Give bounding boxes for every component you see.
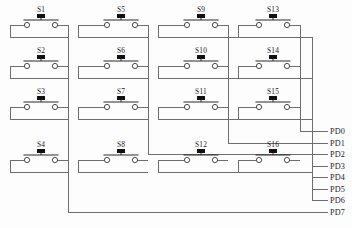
switch-s16[interactable] (256, 149, 291, 163)
switch-s6-left-lead (78, 66, 107, 78)
col-bus-2-vertical (148, 25, 324, 154)
switch-s11-terminal-left (184, 104, 189, 109)
switch-s7-left-lead (78, 107, 107, 119)
switch-s4[interactable] (24, 149, 59, 163)
matrix-keypad-schematic: S1S2S3S4S5S6S7S8S9S10S11S12S13S14S15S16P… (0, 0, 352, 228)
switch-s2-terminal-right (52, 63, 57, 68)
switch-s1-terminal-right (52, 22, 57, 27)
switch-s2-terminal-left (24, 63, 29, 68)
switch-s1[interactable] (24, 14, 59, 28)
switch-s9-plunger-cap[interactable] (197, 14, 205, 18)
switch-s6-terminal-left (104, 63, 109, 68)
switch-s14[interactable] (256, 55, 291, 69)
switch-s1-plunger-cap[interactable] (37, 14, 45, 18)
switch-s12-terminal-right (212, 157, 217, 162)
switch-s8[interactable] (104, 149, 139, 163)
switch-s10-left-lead (158, 66, 187, 78)
switch-s12-designator: S12 (195, 140, 207, 149)
switch-s12[interactable] (184, 149, 219, 163)
wiring-layer (10, 25, 328, 212)
switch-s6[interactable] (104, 55, 139, 69)
switch-s5-terminal-right (132, 22, 137, 27)
switch-s9-left-lead (158, 25, 187, 37)
switch-s9[interactable] (184, 14, 219, 28)
switch-s13-terminal-right (284, 22, 289, 27)
switch-s13[interactable] (256, 14, 291, 28)
port-label-pd1: PD1 (330, 139, 345, 148)
switch-s7-designator: S7 (117, 87, 125, 96)
switch-s1-left-lead (10, 25, 27, 37)
switch-s2[interactable] (24, 55, 59, 69)
switch-s2-designator: S2 (37, 46, 45, 55)
switch-s3-plunger-cap[interactable] (37, 96, 45, 100)
switch-s13-plunger-cap[interactable] (269, 14, 277, 18)
switch-s6-designator: S6 (117, 46, 125, 55)
switch-s3[interactable] (24, 96, 59, 110)
switch-s5-terminal-left (104, 22, 109, 27)
switch-s5-left-lead (78, 25, 107, 37)
switch-s3-terminal-left (24, 104, 29, 109)
switch-s11-plunger-cap[interactable] (197, 96, 205, 100)
switch-s9-terminal-left (184, 22, 189, 27)
port-label-pd5: PD5 (330, 185, 345, 194)
switch-s5[interactable] (104, 14, 139, 28)
switch-s16-terminal-right (284, 157, 289, 162)
switch-s11-terminal-right (212, 104, 217, 109)
switch-s13-left-lead (238, 25, 259, 37)
row-bus-4-to-pd6 (312, 172, 324, 200)
switch-s7-plunger-cap[interactable] (117, 96, 125, 100)
port-label-pd7: PD7 (330, 208, 345, 217)
switch-s14-terminal-right (284, 63, 289, 68)
switch-s7-terminal-right (132, 104, 137, 109)
switch-s5-plunger-cap[interactable] (117, 14, 125, 18)
switch-s11[interactable] (184, 96, 219, 110)
switch-s15-terminal-right (284, 104, 289, 109)
port-label-pd2: PD2 (330, 150, 345, 159)
port-label-pd4: PD4 (330, 173, 345, 182)
switch-s4-designator: S4 (37, 140, 45, 149)
switch-s4-terminal-left (24, 157, 29, 162)
switch-layer (24, 14, 291, 163)
switch-s16-terminal-left (256, 157, 261, 162)
switch-s2-plunger-cap[interactable] (37, 55, 45, 59)
switch-s10[interactable] (184, 55, 219, 69)
switch-s10-designator: S10 (195, 46, 207, 55)
switch-s12-plunger-cap[interactable] (197, 149, 205, 153)
switch-s6-terminal-right (132, 63, 137, 68)
switch-s13-designator: S13 (267, 5, 279, 14)
switch-s10-terminal-left (184, 63, 189, 68)
switch-s9-designator: S9 (197, 5, 205, 14)
switch-s4-terminal-right (52, 157, 57, 162)
switch-s11-designator: S11 (195, 87, 207, 96)
switch-s5-designator: S5 (117, 5, 125, 14)
switch-s13-terminal-left (256, 22, 261, 27)
switch-s16-left-lead (238, 160, 259, 172)
switch-s14-designator: S14 (267, 46, 279, 55)
switch-s16-plunger-cap[interactable] (269, 149, 277, 153)
switch-s15-plunger-cap[interactable] (269, 96, 277, 100)
switch-s11-left-lead (158, 107, 187, 119)
switch-s16-designator: S16 (267, 140, 279, 149)
switch-s12-terminal-left (184, 157, 189, 162)
switch-s15-designator: S15 (267, 87, 279, 96)
port-label-pd6: PD6 (330, 196, 345, 205)
switch-s14-plunger-cap[interactable] (269, 55, 277, 59)
switch-s15-left-lead (238, 107, 259, 119)
switch-s4-left-lead (10, 160, 27, 172)
switch-s6-plunger-cap[interactable] (117, 55, 125, 59)
switch-s7-terminal-left (104, 104, 109, 109)
switch-s8-designator: S8 (117, 140, 125, 149)
col-bus-3-vertical (228, 25, 324, 143)
schematic-canvas: S1S2S3S4S5S6S7S8S9S10S11S12S13S14S15S16P… (0, 0, 352, 228)
switch-s3-left-lead (10, 107, 27, 119)
switch-s1-terminal-left (24, 22, 29, 27)
port-label-pd3: PD3 (330, 162, 345, 171)
switch-s4-plunger-cap[interactable] (37, 149, 45, 153)
switch-s7[interactable] (104, 96, 139, 110)
switch-s8-plunger-cap[interactable] (117, 149, 125, 153)
switch-s14-terminal-left (256, 63, 261, 68)
switch-s10-plunger-cap[interactable] (197, 55, 205, 59)
switch-s2-left-lead (10, 66, 27, 78)
switch-s12-left-lead (158, 160, 187, 172)
switch-s15[interactable] (256, 96, 291, 110)
